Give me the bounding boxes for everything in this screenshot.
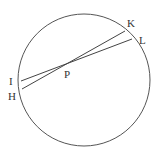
- chord-il: [21, 39, 132, 81]
- label-h: H: [8, 90, 16, 102]
- label-k: K: [127, 17, 135, 29]
- chord-hk: [22, 31, 125, 89]
- chord-diagram: K L I H P: [0, 0, 159, 156]
- label-l: L: [139, 34, 146, 46]
- label-p: P: [64, 68, 70, 80]
- label-i: I: [9, 75, 13, 87]
